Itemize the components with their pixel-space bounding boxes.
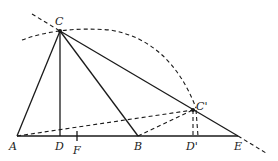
label-B: B [133, 140, 142, 153]
segment-AC [17, 31, 60, 136]
segment-C-prime-tick [196, 110, 198, 136]
label-D-prime: D' [185, 140, 198, 153]
geometry-diagram: C C' A D F B D' E [0, 0, 278, 161]
point-C-prime [191, 108, 195, 112]
label-F: F [72, 144, 81, 157]
label-A: A [8, 140, 17, 153]
line-CE-extension-bottom [238, 136, 266, 153]
label-C-prime: C' [196, 100, 207, 113]
label-D: D [54, 140, 64, 153]
point-C [58, 29, 62, 33]
label-E: E [233, 140, 242, 153]
segment-CE [60, 31, 238, 136]
segment-CB [60, 31, 138, 136]
label-C: C [55, 15, 64, 28]
